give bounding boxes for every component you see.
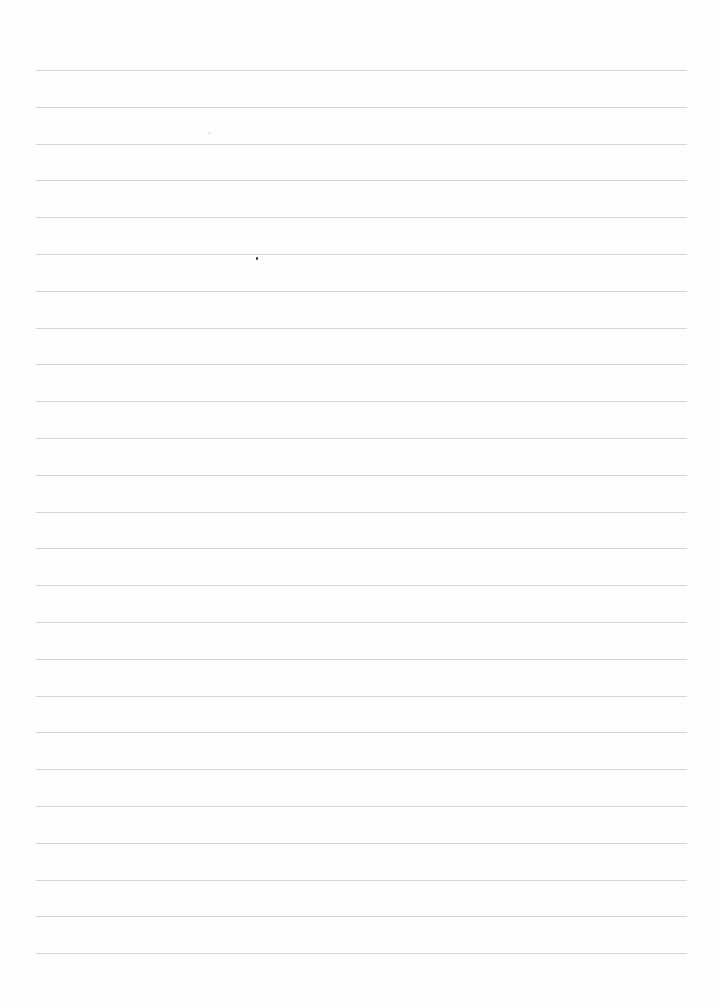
ruled-line [36, 180, 687, 181]
ruled-line [36, 512, 687, 513]
ruled-line [36, 107, 687, 108]
ruled-line [36, 916, 687, 917]
ruled-line [36, 548, 687, 549]
ruled-line [36, 622, 687, 623]
ruled-line [36, 291, 687, 292]
ruled-line [36, 696, 687, 697]
ink-speck [256, 257, 258, 260]
ruled-line [36, 438, 687, 439]
ruled-line [36, 144, 687, 145]
lined-paper-sheet [0, 0, 717, 1003]
ruled-line [36, 769, 687, 770]
ruled-line [36, 364, 687, 365]
ruled-line [36, 401, 687, 402]
ruled-line [36, 254, 687, 255]
ruled-line [36, 843, 687, 844]
ruled-line [36, 70, 687, 71]
ruled-line [36, 806, 687, 807]
ruled-line [36, 953, 687, 954]
ruled-line [36, 880, 687, 881]
ruled-line [36, 659, 687, 660]
ruled-line [36, 475, 687, 476]
ruled-line [36, 585, 687, 586]
ruled-line [36, 328, 687, 329]
ruled-line [36, 217, 687, 218]
ink-speck [209, 132, 210, 134]
ruled-line [36, 732, 687, 733]
